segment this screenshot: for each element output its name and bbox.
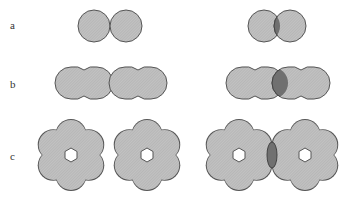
row-b-overlapping bbox=[226, 67, 330, 100]
row-b-touching bbox=[55, 67, 167, 100]
diagram-canvas bbox=[0, 0, 355, 201]
overlap-region bbox=[267, 142, 277, 168]
hex-hole bbox=[299, 148, 311, 162]
row-c-touching bbox=[38, 119, 181, 191]
row-c-overlapping bbox=[206, 119, 339, 191]
hex-hole bbox=[233, 148, 245, 162]
row-a-touching bbox=[78, 10, 142, 42]
hex-hole bbox=[65, 148, 77, 162]
row-a-overlapping bbox=[248, 10, 306, 42]
hex-hole bbox=[141, 148, 153, 162]
